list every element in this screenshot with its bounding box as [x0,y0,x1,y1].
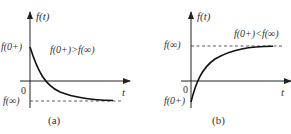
panel-a [20,12,130,108]
panel-a-condition-label: f(0+)>f(∞) [50,45,95,55]
panel-a-caption: (a) [48,115,60,126]
panel-a-origin-label: 0 [21,86,26,96]
panel-b-y-axis-label: f(t) [197,11,210,22]
panel-a-x-axis-label: t [122,87,125,98]
panel-b [181,12,291,108]
panel-a-initial-value-label: f(0+) [1,42,22,52]
panel-b-rise-curve [191,46,273,102]
panel-a-final-value-label: f(∞) [3,96,20,106]
panel-b-origin-label: 0 [183,85,188,95]
panel-b-caption: (b) [212,115,225,126]
panel-b-initial-value-label: f(0+) [164,96,185,106]
panel-b-x-axis-label: t [281,87,284,98]
panel-a-decay-curve [30,47,113,101]
panel-a-y-axis-label: f(t) [36,11,49,22]
panel-b-condition-label: f(0+)<f(∞) [234,29,279,39]
panel-b-final-value-label: f(∞) [164,40,181,50]
